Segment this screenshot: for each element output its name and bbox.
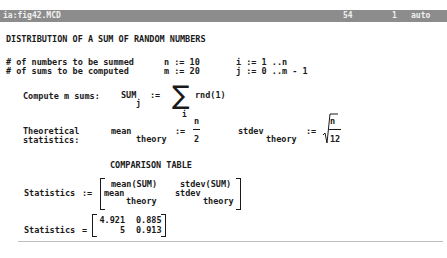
- column-number: 1: [392, 10, 397, 22]
- title-bar: ia:fig42.MCD 54 1 auto: [0, 10, 447, 22]
- filename: ia:fig42.MCD: [3, 10, 61, 22]
- stdev-op: :=: [306, 126, 316, 136]
- right-bracket: [236, 178, 241, 210]
- fraction-bar: [329, 129, 341, 130]
- stat-def-op: :=: [82, 188, 92, 198]
- line-number: 54: [343, 10, 353, 22]
- mean-name: mean: [111, 126, 131, 136]
- mean-sub: theory: [136, 134, 167, 144]
- stdev-num: n: [330, 116, 335, 126]
- sigma-icon: ∑: [172, 82, 190, 108]
- sum-lhs: SUM: [121, 90, 136, 100]
- compute-label: Compute m sums:: [23, 91, 100, 101]
- stdev-name: stdev: [238, 126, 264, 136]
- cell-mean-theory: mean: [104, 188, 124, 198]
- assign-op: :=: [150, 90, 160, 100]
- def-range-j[interactable]: j := 0 ..m - 1: [236, 66, 308, 76]
- sigma-subscript: i: [182, 110, 187, 119]
- mean-num: n: [194, 116, 199, 126]
- cell-stdev-theory-sub: theory: [203, 196, 234, 206]
- stdev-sub: theory: [266, 134, 297, 144]
- res-mean-sum: 4.921: [97, 215, 125, 225]
- stat-res-lhs: Statistics: [24, 225, 75, 235]
- def-label-m: # of sums to be computed: [6, 66, 129, 76]
- stat-def-lhs: Statistics: [24, 188, 75, 198]
- mean-op: :=: [175, 126, 185, 136]
- right-bracket: [161, 214, 166, 237]
- cell-mean-theory-sub: theory: [126, 196, 157, 206]
- mean-den: 2: [194, 134, 199, 144]
- res-mean-theory: 5: [97, 225, 125, 235]
- calc-mode: auto: [411, 10, 430, 22]
- comparison-title: COMPARISON TABLE: [110, 160, 192, 170]
- stat-res-op: =: [82, 225, 87, 235]
- def-assign-m[interactable]: m := 20: [164, 66, 200, 76]
- fraction-bar: [193, 129, 200, 130]
- rnd-call: rnd(1): [195, 90, 226, 100]
- stdev-den: 12: [330, 134, 340, 144]
- theory-label-2: statistics:: [23, 135, 79, 145]
- worksheet-heading: DISTRIBUTION OF A SUM OF RANDOM NUMBERS: [6, 34, 206, 44]
- cell-stdev-theory: stdev: [175, 188, 201, 198]
- sum-subscript: j: [136, 99, 141, 108]
- res-stdev-sum: 0.885: [136, 215, 162, 225]
- res-stdev-theory: 0.913: [136, 225, 162, 235]
- region-separator: [18, 241, 443, 242]
